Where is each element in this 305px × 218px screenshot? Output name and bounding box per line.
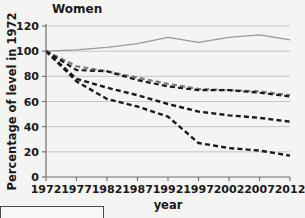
y-tick-label-40: 40	[24, 121, 40, 134]
x-tick-label-2007: 2007	[244, 183, 275, 196]
y-tick-label-80: 80	[24, 70, 40, 83]
chart-title: Women	[52, 2, 102, 16]
series-solid-grey-series	[46, 35, 290, 51]
x-tick-label-1987: 1987	[122, 183, 153, 196]
line-chart: 0204060801001201972197719821987199219972…	[0, 0, 305, 218]
legend-box	[0, 206, 104, 218]
chart-container: 0204060801001201972197719821987199219972…	[0, 0, 305, 218]
series-dashed-grey-upper-series	[46, 51, 290, 95]
series-dashed-black-middle-series	[46, 51, 290, 121]
x-tick-label-1972: 1972	[31, 183, 62, 196]
x-tick-label-2002: 2002	[214, 183, 245, 196]
x-tick-label-1997: 1997	[183, 183, 214, 196]
x-tick-label-1977: 1977	[61, 183, 92, 196]
x-axis-title: year	[154, 198, 183, 212]
y-tick-label-20: 20	[24, 146, 40, 159]
y-tick-label-60: 60	[24, 96, 40, 109]
x-tick-label-2012: 2012	[275, 183, 305, 196]
x-tick-label-1982: 1982	[92, 183, 123, 196]
series-dashed-black-upper-series	[46, 51, 290, 96]
y-axis-title: Percentage of level in 1972	[5, 12, 19, 190]
y-tick-label-100: 100	[16, 45, 39, 58]
x-tick-label-1992: 1992	[153, 183, 184, 196]
y-tick-label-120: 120	[16, 20, 39, 33]
